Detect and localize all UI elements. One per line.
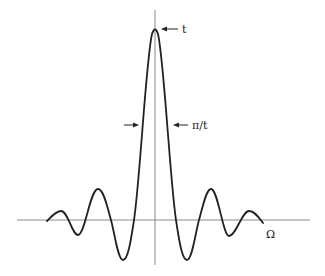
x-axis-label: Ω bbox=[266, 228, 275, 241]
sinc-diagram: t π/t Ω bbox=[0, 0, 325, 276]
width-arrowhead-left-icon bbox=[133, 123, 139, 128]
width-label: π/t bbox=[192, 119, 208, 132]
peak-arrowhead-icon bbox=[161, 27, 167, 32]
width-arrowhead-right-icon bbox=[173, 123, 179, 128]
peak-label: t bbox=[182, 23, 187, 36]
